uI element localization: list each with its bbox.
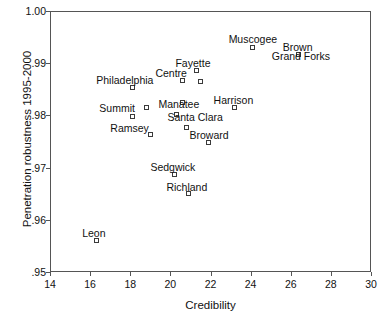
data-point-label: Manatee (158, 99, 199, 110)
data-point-label: Grand Forks (272, 51, 330, 62)
x-axis-title: Credibility (50, 299, 371, 311)
x-tick-mark (371, 272, 372, 276)
data-point-marker (232, 105, 237, 110)
data-point-marker (130, 114, 135, 119)
data-point-label: Sedgwick (150, 162, 195, 173)
x-tick-label: 20 (157, 278, 183, 290)
x-tick-mark (130, 272, 131, 276)
data-point-marker (172, 172, 177, 177)
data-point-label: Summit (99, 103, 135, 114)
y-tick-label: .98 (20, 110, 46, 120)
x-tick-mark (251, 272, 252, 276)
data-point-marker (198, 79, 203, 84)
data-point-label: Richland (166, 182, 207, 193)
x-tick-mark (331, 272, 332, 276)
data-point-label: Muscogee (229, 34, 277, 45)
data-point-label: Fayette (175, 58, 210, 69)
data-point-label: Broward (189, 130, 228, 141)
y-tick-label: .99 (20, 58, 46, 68)
x-tick-label: 28 (318, 278, 344, 290)
x-tick-label: 26 (278, 278, 304, 290)
x-tick-mark (50, 272, 51, 276)
data-point-marker (250, 45, 255, 50)
data-point-label: Philadelphia (96, 75, 153, 86)
x-tick-label: 14 (37, 278, 63, 290)
data-point-marker (180, 78, 185, 83)
data-point-label: Ramsey (110, 123, 149, 134)
data-point-label: Centre (155, 68, 187, 79)
data-point-label: Santa Clara (167, 112, 222, 123)
x-tick-mark (211, 272, 212, 276)
data-point-marker (144, 105, 149, 110)
x-tick-label: 30 (358, 278, 384, 290)
y-tick-label: .97 (20, 163, 46, 173)
x-tick-label: 22 (198, 278, 224, 290)
y-tick-label: 1.00 (20, 6, 46, 16)
y-tick-label: .96 (20, 215, 46, 225)
x-tick-label: 18 (117, 278, 143, 290)
y-tick-label: .95 (20, 267, 46, 277)
scatter-plot-figure: Penetration robustness 1995-2000 1.00.99… (0, 0, 386, 311)
data-point-marker (194, 68, 199, 73)
x-tick-label: 16 (77, 278, 103, 290)
x-tick-mark (90, 272, 91, 276)
data-point-marker (184, 125, 189, 130)
y-axis-title: Penetration robustness 1995-2000 (21, 8, 33, 270)
data-point-label: Harrison (214, 95, 254, 106)
x-tick-mark (170, 272, 171, 276)
x-tick-mark (291, 272, 292, 276)
data-point-marker (130, 85, 135, 90)
data-point-label: Leon (82, 228, 105, 239)
x-tick-label: 24 (238, 278, 264, 290)
